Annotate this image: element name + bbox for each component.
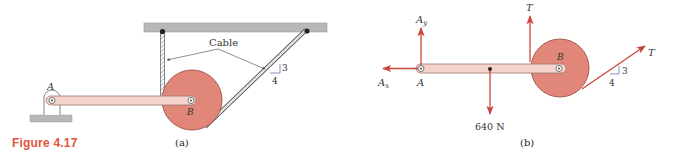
cable-pointer-left [167, 49, 218, 60]
ceiling-support [144, 23, 327, 32]
pin-b-fbd-center [558, 68, 560, 70]
force-weight-label: 640 N [475, 121, 504, 132]
pin-b-center [190, 100, 192, 102]
caption-a: (a) [175, 137, 189, 148]
panel-b: Ax Ay A B T 640 N T 3 4 (b) [377, 2, 656, 148]
cable-attach-left [160, 29, 165, 34]
force-t-vertical-label: T [526, 2, 534, 13]
label-b-panel-b: B [556, 52, 564, 62]
slope-run-b: 4 [609, 78, 615, 88]
label-b-panel-a: B [186, 107, 194, 117]
bar-ab [46, 96, 196, 105]
cable-label: Cable [209, 37, 238, 48]
figure-canvas: A B Cable 3 4 (a) Ax Ay A B [0, 0, 681, 155]
panel-a: A B Cable 3 4 (a) [30, 23, 327, 148]
label-a-panel-b: A [416, 77, 424, 88]
cable-attach-right [304, 28, 309, 33]
label-a-panel-a: A [46, 81, 54, 92]
slope-run-a: 4 [272, 76, 278, 86]
force-t-inclined-label: T [648, 47, 656, 58]
slope-rise-b: 3 [622, 66, 628, 76]
pin-a-fbd-center [420, 68, 422, 70]
cable-pointer-right [218, 49, 265, 69]
figure-number-label: Figure 4.17 [12, 136, 78, 150]
center-of-gravity [488, 67, 492, 71]
force-ay-label: Ay [415, 14, 428, 27]
slope-rise-a: 3 [282, 63, 288, 73]
ground-support [30, 115, 72, 122]
caption-b: (b) [520, 137, 534, 148]
force-ax-label: Ax [377, 77, 389, 90]
pin-a-center [51, 100, 53, 102]
